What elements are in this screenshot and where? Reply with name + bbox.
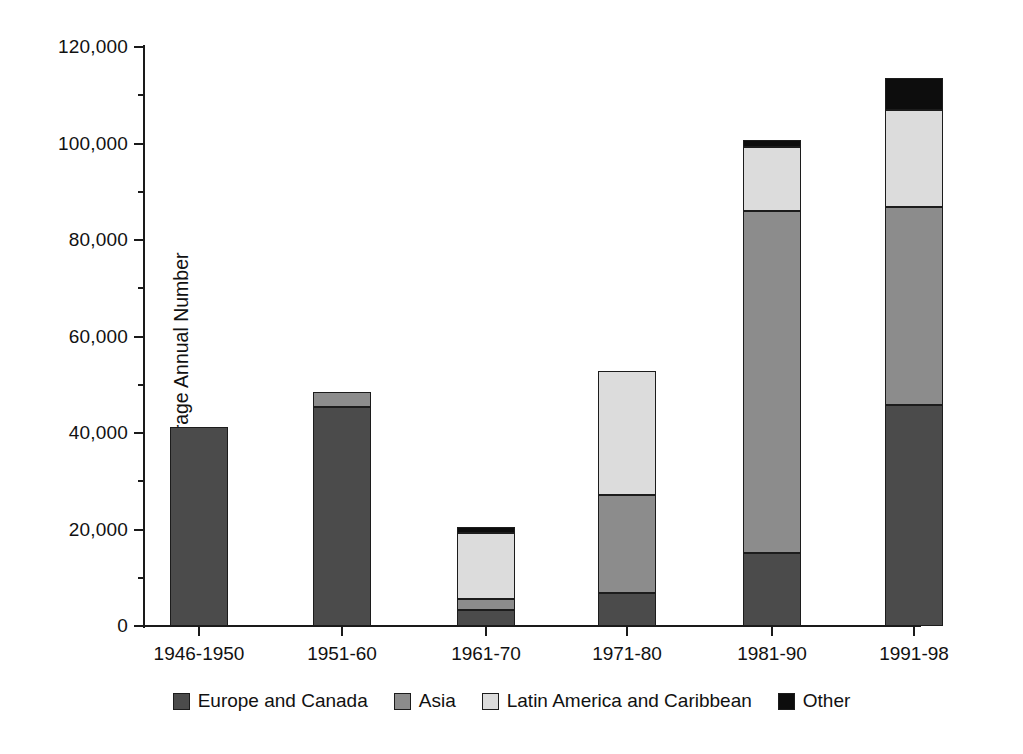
bar-segment[interactable] xyxy=(885,110,943,207)
legend-item[interactable]: Latin America and Caribbean xyxy=(482,690,752,712)
bar-segment[interactable] xyxy=(885,78,943,110)
bar-segment[interactable] xyxy=(743,211,801,553)
x-axis-tick xyxy=(626,627,628,636)
stacked-bar[interactable] xyxy=(170,47,228,626)
bar-group[interactable] xyxy=(598,47,656,626)
chart-legend: Europe and CanadaAsiaLatin America and C… xyxy=(0,690,1023,712)
bar-group[interactable] xyxy=(313,47,371,626)
legend-swatch-latin-america-and-caribbean xyxy=(482,693,499,710)
bar-segment[interactable] xyxy=(457,599,515,610)
chart-figure: 120,000100,00080,00060,00040,00020,0000 … xyxy=(0,0,1023,754)
bar-segment[interactable] xyxy=(598,371,656,495)
legend-item[interactable]: Europe and Canada xyxy=(173,690,368,712)
legend-swatch-europe-and-canada xyxy=(173,693,190,710)
x-axis-tick xyxy=(198,627,200,636)
y-axis-tick-label: 100,000 xyxy=(0,134,128,153)
stacked-bar[interactable] xyxy=(743,47,801,626)
bar-segment[interactable] xyxy=(885,207,943,405)
bar-segment[interactable] xyxy=(457,527,515,533)
legend-item[interactable]: Other xyxy=(778,690,851,712)
y-axis-tick-label: 60,000 xyxy=(0,327,128,346)
bar-segment[interactable] xyxy=(743,553,801,626)
y-axis-tick-label: 80,000 xyxy=(0,230,128,249)
bar-segment[interactable] xyxy=(598,593,656,626)
bar-segment[interactable] xyxy=(313,392,371,407)
legend-swatch-other xyxy=(778,693,795,710)
x-axis-tick xyxy=(913,627,915,636)
x-axis-tick-label: 1971-80 xyxy=(547,643,707,665)
legend-label: Europe and Canada xyxy=(198,690,368,712)
x-axis-tick-label: 1951-60 xyxy=(262,643,422,665)
x-axis-tick-label: 1961-70 xyxy=(406,643,566,665)
bar-segment[interactable] xyxy=(743,147,801,211)
y-axis-tick-label: 0 xyxy=(0,616,128,635)
y-axis-tick-label: 20,000 xyxy=(0,520,128,539)
stacked-bar[interactable] xyxy=(313,47,371,626)
bar-group[interactable] xyxy=(743,47,801,626)
bar-segment[interactable] xyxy=(170,427,228,626)
bar-group[interactable] xyxy=(170,47,228,626)
bar-group[interactable] xyxy=(457,47,515,626)
bar-segment[interactable] xyxy=(743,140,801,147)
y-axis-tick-label: 40,000 xyxy=(0,423,128,442)
stacked-bar[interactable] xyxy=(598,47,656,626)
x-axis-tick-label: 1991-98 xyxy=(834,643,994,665)
x-axis-tick-label: 1981-90 xyxy=(692,643,852,665)
legend-label: Asia xyxy=(419,690,456,712)
x-axis-tick xyxy=(771,627,773,636)
bar-group[interactable] xyxy=(885,47,943,626)
plot-area: Average Annual Number xyxy=(143,47,920,626)
x-axis-tick xyxy=(485,627,487,636)
legend-swatch-asia xyxy=(394,693,411,710)
bar-segment[interactable] xyxy=(885,405,943,626)
bar-segment[interactable] xyxy=(313,407,371,626)
stacked-bar[interactable] xyxy=(885,47,943,626)
x-axis-tick xyxy=(341,627,343,636)
page-bottom-margin xyxy=(0,726,1023,754)
x-axis-tick-label: 1946-1950 xyxy=(119,643,279,665)
y-axis-tick-label: 120,000 xyxy=(0,37,128,56)
bar-segment[interactable] xyxy=(457,533,515,599)
bar-segment[interactable] xyxy=(598,495,656,593)
legend-item[interactable]: Asia xyxy=(394,690,456,712)
legend-label: Latin America and Caribbean xyxy=(507,690,752,712)
bar-segment[interactable] xyxy=(457,610,515,626)
legend-label: Other xyxy=(803,690,851,712)
stacked-bar[interactable] xyxy=(457,47,515,626)
